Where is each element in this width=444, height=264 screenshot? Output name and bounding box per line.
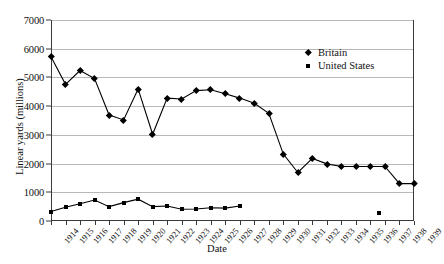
data-point-united-states <box>93 198 97 202</box>
x-tick-mark-1936 <box>370 221 371 225</box>
x-tick-mark-1916 <box>80 221 81 225</box>
legend-item-united-states: United States <box>302 59 374 72</box>
gridline-1000 <box>52 192 413 193</box>
x-tick-mark-1925 <box>211 221 212 225</box>
data-point-united-states <box>49 210 53 214</box>
x-tick-mark-1921 <box>153 221 154 225</box>
x-tick-mark-1926 <box>225 221 226 225</box>
x-tick-mark-1931 <box>298 221 299 225</box>
x-tick-mark-1928 <box>254 221 255 225</box>
y-tick-label-7000: 7000 <box>24 15 44 26</box>
y-tick-label-6000: 6000 <box>24 43 44 54</box>
y-tick-label-2000: 2000 <box>24 158 44 169</box>
legend-item-britain: Britain <box>302 46 374 59</box>
x-tick-mark-1932 <box>312 221 313 225</box>
data-point-united-states <box>122 201 126 205</box>
x-tick-mark-1930 <box>283 221 284 225</box>
x-tick-mark-1937 <box>385 221 386 225</box>
legend-label: Britain <box>314 46 347 59</box>
x-tick-mark-1915 <box>66 221 67 225</box>
y-tick-label-1000: 1000 <box>24 187 44 198</box>
legend-label: United States <box>314 59 374 72</box>
data-point-united-states <box>238 204 242 208</box>
x-tick-mark-1923 <box>182 221 183 225</box>
x-tick-mark-1918 <box>109 221 110 225</box>
x-tick-mark-1929 <box>269 221 270 225</box>
x-tick-mark-1917 <box>95 221 96 225</box>
x-tick-mark-1927 <box>240 221 241 225</box>
x-tick-mark-1920 <box>138 221 139 225</box>
data-point-united-states <box>194 207 198 211</box>
data-point-united-states <box>107 205 111 209</box>
x-tick-mark-1938 <box>399 221 400 225</box>
y-tick-label-0: 0 <box>39 216 44 227</box>
legend: BritainUnited States <box>302 46 374 72</box>
data-point-united-states <box>223 206 227 210</box>
data-point-united-states <box>165 204 169 208</box>
gridline-5000 <box>52 77 413 78</box>
x-tick-mark-1924 <box>196 221 197 225</box>
data-point-united-states <box>377 211 381 215</box>
x-tick-mark-1935 <box>356 221 357 225</box>
gridline-3000 <box>52 135 413 136</box>
y-axis-title: Linear yards (millions) <box>14 78 25 175</box>
y-axis: 01000200030004000500060007000 <box>0 0 51 264</box>
gridline-7000 <box>52 20 413 21</box>
square-marker-icon <box>302 64 314 68</box>
x-tick-mark-1933 <box>327 221 328 225</box>
x-tick-mark-1914 <box>51 221 52 225</box>
gridline-4000 <box>52 106 413 107</box>
x-axis-title: Date <box>0 243 434 254</box>
y-tick-label-3000: 3000 <box>24 129 44 140</box>
diamond-marker-icon <box>302 50 314 55</box>
x-tick-mark-1919 <box>124 221 125 225</box>
data-point-united-states <box>78 202 82 206</box>
data-point-united-states <box>180 207 184 211</box>
x-tick-mark-1934 <box>341 221 342 225</box>
y-tick-label-4000: 4000 <box>24 101 44 112</box>
y-tick-label-5000: 5000 <box>24 72 44 83</box>
data-point-united-states <box>151 205 155 209</box>
x-tick-mark-1939 <box>414 221 415 225</box>
gridline-2000 <box>52 164 413 165</box>
data-point-united-states <box>209 206 213 210</box>
x-tick-mark-1922 <box>167 221 168 225</box>
data-point-united-states <box>64 205 68 209</box>
data-point-united-states <box>136 197 140 201</box>
